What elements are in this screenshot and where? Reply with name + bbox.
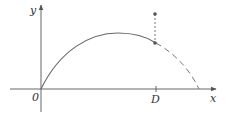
origin-label: 0 [32, 91, 39, 104]
y-axis-label: y [29, 4, 37, 17]
x-axis-label: x [210, 92, 217, 105]
trajectory-dashed [156, 43, 199, 89]
point-above [153, 12, 157, 16]
trajectory-solid [41, 33, 156, 89]
point-on-curve [153, 41, 157, 45]
trajectory-diagram: y x 0 D [0, 0, 229, 114]
d-label: D [150, 93, 160, 106]
